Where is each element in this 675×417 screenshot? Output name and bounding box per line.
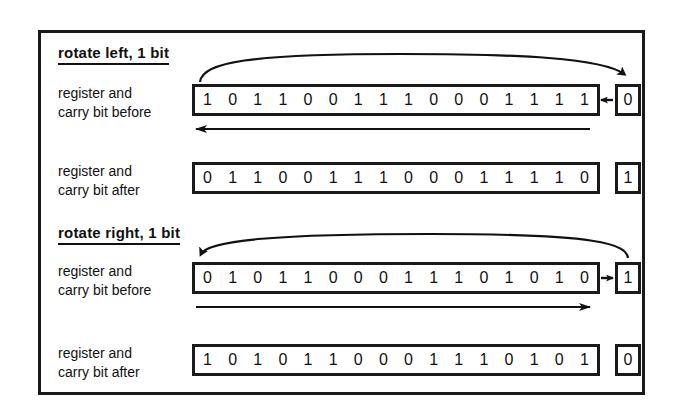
bit-cell: 0 xyxy=(245,265,270,291)
bit-cell: 0 xyxy=(195,265,220,291)
rotate-right-after-label-line1: register and xyxy=(58,344,140,363)
bit-cell: 1 xyxy=(296,347,321,373)
rotate-right-after-register: 1010110001110101 xyxy=(192,344,600,376)
bit-cell: 0 xyxy=(270,165,295,191)
rotate-left-before-register: 1011001110001111 xyxy=(192,84,600,116)
bit-cell: 0 xyxy=(321,265,346,291)
bit-cell: 0 xyxy=(446,87,471,113)
bit-cell: 1 xyxy=(270,265,295,291)
bit-cell: 0 xyxy=(321,87,346,113)
rotate-left-before-label: register and carry bit before xyxy=(58,84,151,122)
bit-cell: 0 xyxy=(547,347,572,373)
bit-cell: 0 xyxy=(421,165,446,191)
bit-cell: 0 xyxy=(296,87,321,113)
bit-cell: 1 xyxy=(245,347,270,373)
bit-cell: 1 xyxy=(547,165,572,191)
bit-cell: 0 xyxy=(446,165,471,191)
bit-cell: 0 xyxy=(346,347,371,373)
bit-cell: 1 xyxy=(547,265,572,291)
rotate-left-after-label: register and carry bit after xyxy=(58,162,140,200)
bit-cell: 1 xyxy=(446,265,471,291)
bit-cell: 1 xyxy=(572,87,597,113)
bit-cell: 1 xyxy=(245,165,270,191)
rotate-left-after-carry-bit: 1 xyxy=(615,162,641,194)
rotate-left-after-label-line1: register and xyxy=(58,162,140,181)
bit-cell: 1 xyxy=(321,165,346,191)
bit-cell: 0 xyxy=(195,165,220,191)
bit-cell: 1 xyxy=(195,347,220,373)
rotate-bit-diagram: rotate left, 1 bit register and carry bi… xyxy=(0,0,675,417)
rotate-right-heading: rotate right, 1 bit xyxy=(58,224,180,245)
bit-cell: 1 xyxy=(471,165,496,191)
bit-cell: 1 xyxy=(446,347,471,373)
bit-cell: 1 xyxy=(471,347,496,373)
bit-cell: 0 xyxy=(497,347,522,373)
bit-cell: 0 xyxy=(396,347,421,373)
bit-cell: 0 xyxy=(421,87,446,113)
bit-cell: 0 xyxy=(471,87,496,113)
bit-cell: 1 xyxy=(497,265,522,291)
rotate-right-after-carry-bit: 0 xyxy=(615,344,641,376)
bit-cell: 1 xyxy=(497,87,522,113)
bit-cell: 1 xyxy=(371,165,396,191)
bit-cell: 0 xyxy=(471,265,496,291)
bit-cell: 1 xyxy=(547,87,572,113)
rotate-left-heading: rotate left, 1 bit xyxy=(58,44,169,65)
bit-cell: 1 xyxy=(572,347,597,373)
bit-cell: 1 xyxy=(195,87,220,113)
bit-cell: 1 xyxy=(421,265,446,291)
bit-cell: 0 xyxy=(220,347,245,373)
bit-cell: 1 xyxy=(346,87,371,113)
rotate-right-after-label: register and carry bit after xyxy=(58,344,140,382)
bit-cell: 1 xyxy=(497,165,522,191)
bit-cell: 1 xyxy=(396,265,421,291)
bit-cell: 0 xyxy=(522,265,547,291)
bit-cell: 0 xyxy=(296,165,321,191)
rotate-left-before-carry-bit: 0 xyxy=(615,84,641,116)
bit-cell: 1 xyxy=(321,347,346,373)
rotate-right-before-label: register and carry bit before xyxy=(58,262,151,300)
rotate-right-before-label-line1: register and xyxy=(58,262,151,281)
bit-cell: 1 xyxy=(522,87,547,113)
rotate-left-before-label-line1: register and xyxy=(58,84,151,103)
bit-cell: 1 xyxy=(270,87,295,113)
rotate-left-before-label-line2: carry bit before xyxy=(58,103,151,122)
bit-cell: 0 xyxy=(371,265,396,291)
rotate-left-after-label-line2: carry bit after xyxy=(58,181,140,200)
bit-cell: 1 xyxy=(245,87,270,113)
bit-cell: 1 xyxy=(296,265,321,291)
rotate-right-before-label-line2: carry bit before xyxy=(58,281,151,300)
bit-cell: 1 xyxy=(220,265,245,291)
rotate-right-before-register: 0101100011101010 xyxy=(192,262,600,294)
bit-cell: 0 xyxy=(396,165,421,191)
bit-cell: 0 xyxy=(270,347,295,373)
bit-cell: 1 xyxy=(346,165,371,191)
bit-cell: 1 xyxy=(220,165,245,191)
bit-cell: 0 xyxy=(572,265,597,291)
rotate-left-after-register: 0110011100011110 xyxy=(192,162,600,194)
bit-cell: 0 xyxy=(346,265,371,291)
rotate-right-after-label-line2: carry bit after xyxy=(58,363,140,382)
bit-cell: 1 xyxy=(371,87,396,113)
bit-cell: 0 xyxy=(371,347,396,373)
bit-cell: 0 xyxy=(572,165,597,191)
bit-cell: 1 xyxy=(421,347,446,373)
bit-cell: 0 xyxy=(220,87,245,113)
rotate-right-before-carry-bit: 1 xyxy=(615,262,641,294)
bit-cell: 1 xyxy=(522,165,547,191)
bit-cell: 1 xyxy=(522,347,547,373)
bit-cell: 1 xyxy=(396,87,421,113)
